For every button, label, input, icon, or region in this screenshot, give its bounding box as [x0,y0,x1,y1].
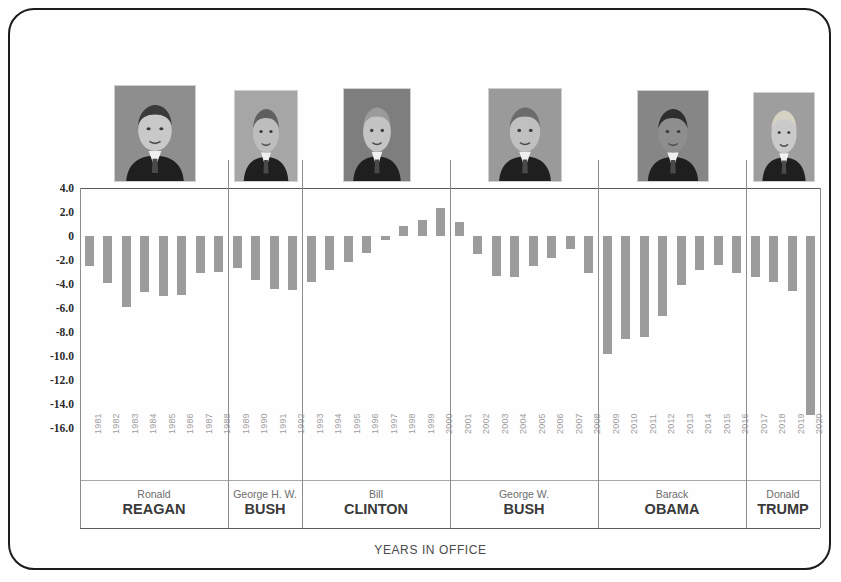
chart-card: 4.02.00-2.0-4.0-6.0-8.0-10.0-12.0-14.0-1… [8,8,831,570]
x-axis-year-label: 1984 [148,413,158,434]
y-axis: 4.02.00-2.0-4.0-6.0-8.0-10.0-12.0-14.0-1… [24,188,74,428]
bar [214,236,223,272]
president-first-name: Ronald [80,488,228,501]
president-first-name: Barack [598,488,746,501]
president-first-name: George H. W. [228,488,302,501]
x-axis-year-label: 2012 [666,413,676,434]
bar [640,236,649,337]
bar [751,236,760,277]
bar [566,236,575,249]
bar [418,220,427,236]
president-label-reagan-0: RonaldREAGAN [80,488,228,528]
president-separator [302,160,303,528]
bar [769,236,778,282]
president-label-obama-4: BarackOBAMA [598,488,746,528]
president-last-name: BUSH [228,501,302,518]
x-axis-year-label: 2009 [611,413,621,434]
y-axis-tick-label: -4.0 [28,278,74,290]
bar [714,236,723,265]
president-label-bush-1: George H. W.BUSH [228,488,302,528]
x-axis-year-label: 1987 [204,413,214,434]
x-axis-year-label: 1982 [111,413,121,434]
x-axis-year-label: 1995 [352,413,362,434]
bar [436,208,445,236]
x-axis-year-label: 2014 [703,413,713,434]
x-axis-year-label: 2004 [518,413,528,434]
bar [473,236,482,254]
bar [362,236,371,253]
portrait-donald-trump [753,92,815,182]
bar [806,236,815,415]
portrait-george-hw-bush [234,90,298,182]
y-axis-tick-label: 4.0 [28,182,74,194]
portrait-bill-clinton [343,88,411,182]
bar [492,236,501,276]
president-separator [598,160,599,528]
bar [344,236,353,262]
x-axis-year-label: 2005 [537,413,547,434]
x-axis-year-label: 2011 [648,414,658,434]
president-separator [450,160,451,528]
plot-left-border [80,188,81,528]
bar [621,236,630,339]
x-axis-year-label: 1997 [389,413,399,434]
bar [233,236,242,268]
bar [122,236,131,307]
bar [677,236,686,285]
president-separator [746,160,747,528]
x-axis-year-label: 2003 [500,413,510,434]
president-label-clinton-2: BillCLINTON [302,488,450,528]
bar [732,236,741,273]
x-axis-year-label: 2015 [722,413,732,434]
bar [196,236,205,273]
bar [288,236,297,290]
bar [85,236,94,266]
x-axis-year-label: 2018 [777,413,787,434]
x-axis-year-label: 1998 [407,413,417,434]
x-axis-year-label: 1985 [167,413,177,434]
bar [788,236,797,291]
y-axis-tick-label: -12.0 [28,374,74,386]
x-axis-year-label: 1990 [259,413,269,434]
bar [399,226,408,236]
president-label-trump-5: DonaldTRUMP [746,488,820,528]
y-axis-tick-label: -6.0 [28,302,74,314]
bar [529,236,538,266]
x-axis-year-label: 1993 [315,413,325,434]
bar [455,222,464,236]
y-axis-tick-label: -10.0 [28,350,74,362]
bar [103,236,112,283]
president-last-name: TRUMP [746,501,820,518]
president-label-bush-3: George W.BUSH [450,488,598,528]
bar [307,236,316,282]
bar [140,236,149,292]
x-axis-year-label: 1994 [333,413,343,434]
bar [547,236,556,258]
bar [270,236,279,289]
plot-right-border [820,188,821,528]
x-axis-year-label: 2006 [555,413,565,434]
portrait-ronald-reagan [114,85,196,182]
portrait-barack-obama [637,90,709,182]
x-axis-year-label: 1996 [370,413,380,434]
president-last-name: OBAMA [598,501,746,518]
x-axis-title: YEARS IN OFFICE [10,543,841,557]
bar [251,236,260,280]
bar [159,236,168,296]
portrait-george-w-bush [488,88,562,182]
president-first-name: George W. [450,488,598,501]
president-first-name: Bill [302,488,450,501]
bar [177,236,186,295]
president-first-name: Donald [746,488,820,501]
x-axis-year-label: 1986 [185,413,195,434]
y-axis-tick-label: -16.0 [28,422,74,434]
y-axis-tick-label: -2.0 [28,254,74,266]
x-axis-year-label: 2001 [463,413,473,434]
x-axis-year-label: 2002 [481,413,491,434]
x-axis-year-label: 1981 [93,413,103,434]
y-axis-tick-label: -8.0 [28,326,74,338]
bar [584,236,593,273]
y-axis-tick-label: 0 [28,230,74,242]
x-axis-year-label: 1999 [426,413,436,434]
y-axis-tick-label: 2.0 [28,206,74,218]
